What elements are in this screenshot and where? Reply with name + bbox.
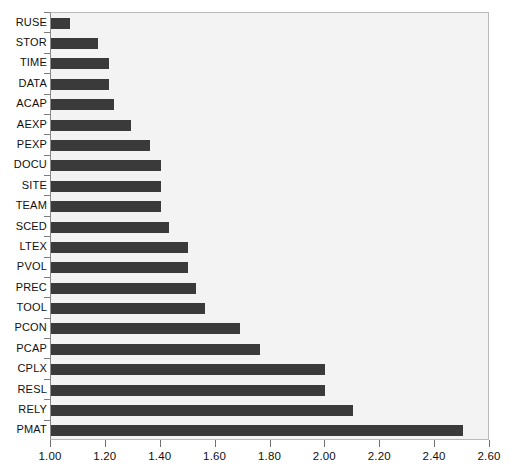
bar-fill — [51, 38, 98, 49]
y-label-docu: DOCU — [1, 159, 47, 170]
bar-fill — [51, 425, 463, 436]
x-tick-mark — [489, 440, 490, 447]
bar-rely — [51, 405, 490, 416]
y-label-stor: STOR — [1, 37, 47, 48]
y-label-ruse: RUSE — [1, 17, 47, 28]
x-tick-mark — [105, 440, 106, 447]
x-tick-mark — [379, 440, 380, 447]
bar-ltex — [51, 242, 490, 253]
y-label-pexp: PEXP — [1, 139, 47, 150]
bar-fill — [51, 222, 169, 233]
bar-pvol — [51, 262, 490, 273]
x-label-1-40: 1.40 — [148, 450, 171, 462]
y-label-pmat: PMAT — [1, 424, 47, 435]
bar-acap — [51, 99, 490, 110]
bar-aexp — [51, 120, 490, 131]
x-tick-mark — [215, 440, 216, 447]
y-label-rely: RELY — [1, 404, 47, 415]
bar-cplx — [51, 364, 490, 375]
x-tick-mark — [160, 440, 161, 447]
bar-docu — [51, 160, 490, 171]
bar-team — [51, 201, 490, 212]
x-label-2-00: 2.00 — [313, 450, 336, 462]
x-tick-mark — [270, 440, 271, 447]
y-label-acap: ACAP — [1, 98, 47, 109]
bar-chart: RUSESTORTIMEDATAACAPAEXPPEXPDOCUSITETEAM… — [0, 0, 510, 476]
bar-fill — [51, 99, 114, 110]
y-label-cplx: CPLX — [1, 363, 47, 374]
x-axis: 1.001.201.401.601.802.002.202.402.60 — [50, 440, 489, 476]
bar-pcap — [51, 344, 490, 355]
bar-fill — [51, 18, 70, 29]
bar-fill — [51, 120, 131, 131]
y-label-pcap: PCAP — [1, 343, 47, 354]
x-tick-mark — [50, 440, 51, 447]
x-label-2-20: 2.20 — [368, 450, 391, 462]
x-label-2-40: 2.40 — [423, 450, 446, 462]
x-label-1-00: 1.00 — [38, 450, 61, 462]
bar-data — [51, 79, 490, 90]
bar-pexp — [51, 140, 490, 151]
bar-prec — [51, 283, 490, 294]
bar-resl — [51, 385, 490, 396]
bar-ruse — [51, 18, 490, 29]
bar-fill — [51, 283, 196, 294]
bar-fill — [51, 79, 109, 90]
x-tick-mark — [434, 440, 435, 447]
x-label-1-80: 1.80 — [258, 450, 281, 462]
y-label-pvol: PVOL — [1, 261, 47, 272]
bar-fill — [51, 385, 325, 396]
plot-area — [50, 12, 489, 440]
bar-fill — [51, 201, 161, 212]
bar-stor — [51, 38, 490, 49]
bar-fill — [51, 405, 353, 416]
y-label-site: SITE — [1, 180, 47, 191]
y-label-resl: RESL — [1, 384, 47, 395]
y-label-ltex: LTEX — [1, 241, 47, 252]
bar-fill — [51, 364, 325, 375]
y-label-team: TEAM — [1, 200, 47, 211]
y-label-data: DATA — [1, 78, 47, 89]
bar-site — [51, 181, 490, 192]
bar-fill — [51, 181, 161, 192]
y-label-time: TIME — [1, 57, 47, 68]
bar-sced — [51, 222, 490, 233]
bar-fill — [51, 344, 260, 355]
y-label-pcon: PCON — [1, 322, 47, 333]
y-label-prec: PREC — [1, 282, 47, 293]
bar-fill — [51, 140, 150, 151]
bar-pmat — [51, 425, 490, 436]
x-label-2-60: 2.60 — [477, 450, 500, 462]
bar-fill — [51, 58, 109, 69]
y-label-tool: TOOL — [1, 302, 47, 313]
bar-fill — [51, 242, 188, 253]
bar-fill — [51, 323, 240, 334]
y-axis-category-labels: RUSESTORTIMEDATAACAPAEXPPEXPDOCUSITETEAM… — [0, 12, 47, 440]
bar-fill — [51, 160, 161, 171]
bar-tool — [51, 303, 490, 314]
y-label-aexp: AEXP — [1, 119, 47, 130]
x-tick-mark — [324, 440, 325, 447]
bar-fill — [51, 262, 188, 273]
bar-pcon — [51, 323, 490, 334]
x-label-1-60: 1.60 — [203, 450, 226, 462]
bar-fill — [51, 303, 205, 314]
x-label-1-20: 1.20 — [93, 450, 116, 462]
bar-time — [51, 58, 490, 69]
y-label-sced: SCED — [1, 221, 47, 232]
